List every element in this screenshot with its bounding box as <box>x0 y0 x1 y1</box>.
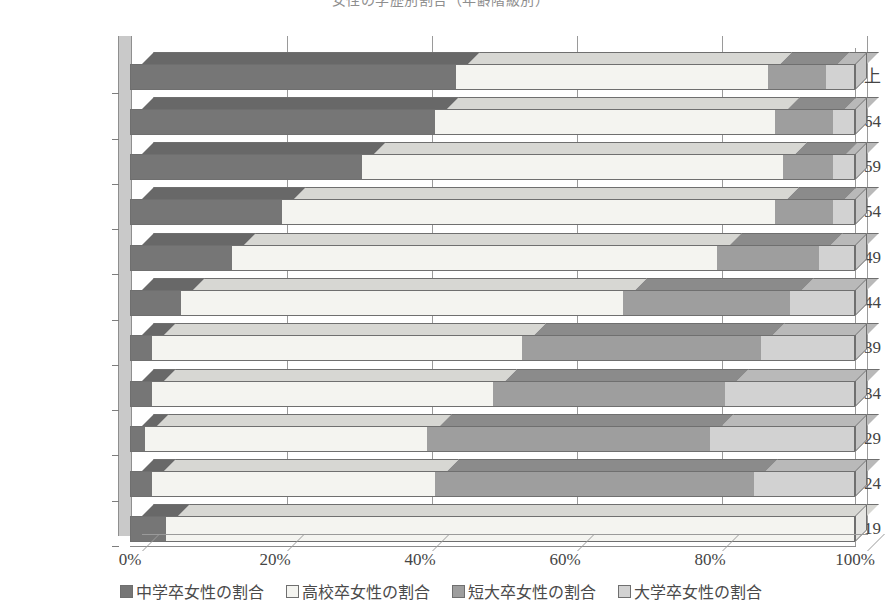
x-axis-line <box>130 546 856 547</box>
bar-segment <box>717 245 819 271</box>
x-axis-label: 60% <box>549 550 580 570</box>
bar-segment <box>768 64 826 90</box>
bar-segment-top-face <box>244 233 742 245</box>
bar-segment-top-face <box>164 369 517 381</box>
bar-segment <box>232 245 718 271</box>
bar-segment-top-face <box>142 52 480 64</box>
bar-segment <box>775 199 833 225</box>
bar-segment-top-face <box>142 187 306 199</box>
plot-area: 65歳以上60〜6455〜5950〜5445〜4940〜4435〜3930〜34… <box>0 14 881 574</box>
bar-segment <box>456 64 768 90</box>
bar-segment-top-face <box>294 187 799 199</box>
bar-segment-top-face <box>439 414 734 426</box>
bar-segment-top-face <box>635 278 814 290</box>
category-tick <box>112 546 119 547</box>
bar-segment <box>819 245 855 271</box>
bar-segment <box>130 381 152 407</box>
bar-segment <box>761 335 855 361</box>
legend-item[interactable]: 中学卒女性の割合 <box>120 579 264 603</box>
bar-segment <box>130 471 152 497</box>
bar-segment <box>833 109 855 135</box>
bar-segment <box>725 381 856 407</box>
bar-row <box>0 414 881 440</box>
bar-segment <box>152 381 493 407</box>
category-tick <box>112 320 119 321</box>
x-axis-label: 20% <box>259 550 290 570</box>
legend-swatch-icon <box>286 585 299 598</box>
bar-segment <box>833 154 855 180</box>
chart-title-strip: 女性の学歴別割合（年齢階級別） <box>0 0 881 14</box>
bar-segment <box>775 109 833 135</box>
bar-segment-top-face <box>729 233 843 245</box>
bar-segment-top-face <box>374 142 807 154</box>
bar-segment <box>130 335 152 361</box>
bar-segment-top-face <box>164 323 546 335</box>
legend-item[interactable]: 短大卒女性の割合 <box>452 579 596 603</box>
bar-segment <box>833 199 855 225</box>
legend-item[interactable]: 大学卒女性の割合 <box>618 579 762 603</box>
bar-segment <box>790 290 855 316</box>
bar-segment <box>522 335 761 361</box>
bar-segment <box>145 426 428 452</box>
bar-segment-top-face <box>534 323 785 335</box>
x-axis-back-line <box>142 534 868 535</box>
bar-row <box>0 504 881 530</box>
bar-segment <box>130 154 362 180</box>
bar-row <box>0 233 881 259</box>
x-axis-label: 100% <box>835 550 875 570</box>
legend-label: 中学卒女性の割合 <box>136 579 264 603</box>
bar-segment <box>130 245 232 271</box>
bar-segment-top-face <box>447 97 800 109</box>
stacked-bar-chart: 65歳以上60〜6455〜5950〜5445〜4940〜4435〜3930〜34… <box>0 14 881 574</box>
bar-segment <box>130 109 435 135</box>
bar-segment-top-face <box>505 369 749 381</box>
legend-label: 大学卒女性の割合 <box>634 579 762 603</box>
bar-segment <box>130 199 282 225</box>
bar-segment <box>130 426 145 452</box>
bar-segment <box>754 471 856 497</box>
x-axis-label: 80% <box>694 550 725 570</box>
bar-row <box>0 52 881 78</box>
legend-label: 短大卒女性の割合 <box>468 579 596 603</box>
bar-segment <box>623 290 790 316</box>
bar-row <box>0 97 881 123</box>
bar-segment-top-face <box>780 52 850 64</box>
legend-label: 高校卒女性の割合 <box>302 579 430 603</box>
bar-row <box>0 369 881 395</box>
page-title: 女性の学歴別割合（年齢階級別） <box>332 0 550 9</box>
bar-row <box>0 278 881 304</box>
bar-row <box>0 323 881 349</box>
legend-item[interactable]: 高校卒女性の割合 <box>286 579 430 603</box>
chart-legend: 中学卒女性の割合高校卒女性の割合短大卒女性の割合大学卒女性の割合 <box>0 574 881 608</box>
x-axis-label: 40% <box>404 550 435 570</box>
bar-segment-top-face <box>802 278 879 290</box>
bar-segment <box>362 154 783 180</box>
legend-swatch-icon <box>618 585 631 598</box>
legend-swatch-icon <box>452 585 465 598</box>
bar-segment-top-face <box>164 459 459 471</box>
bar-segment-top-face <box>157 414 452 426</box>
bar-segment <box>130 516 166 542</box>
bar-segment <box>166 516 855 542</box>
category-tick <box>112 229 119 230</box>
category-tick <box>112 501 119 502</box>
category-tick <box>112 365 119 366</box>
legend-swatch-icon <box>120 585 133 598</box>
bar-segment-top-face <box>142 233 256 245</box>
bar-segment <box>826 64 855 90</box>
bar-row <box>0 142 881 168</box>
category-tick <box>112 139 119 140</box>
category-tick <box>112 274 119 275</box>
bar-segment-top-face <box>142 97 459 109</box>
category-tick <box>112 410 119 411</box>
category-tick <box>112 184 119 185</box>
bar-segment <box>493 381 725 407</box>
bar-segment <box>130 64 456 90</box>
bar-segment-top-face <box>142 142 386 154</box>
bar-segment-top-face <box>447 459 778 471</box>
bar-segment <box>130 290 181 316</box>
bar-row <box>0 459 881 485</box>
bar-segment-top-face <box>178 504 879 516</box>
bar-segment <box>427 426 710 452</box>
bar-segment <box>435 109 776 135</box>
